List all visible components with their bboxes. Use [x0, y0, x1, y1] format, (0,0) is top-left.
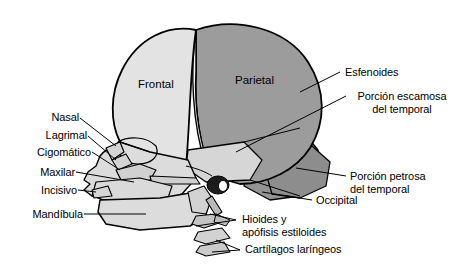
label-esfenoides: Esfenoides: [345, 66, 398, 79]
label-cartilagos: Cartílagos laríngeos: [245, 243, 341, 256]
label-hioides-line1: Hioides y: [242, 213, 286, 225]
label-porcion-escamosa-line2: del temporal: [372, 103, 431, 115]
label-porcion-petrosa: Porción petrosa del temporal: [350, 170, 426, 195]
label-lagrimal: Lagrimal: [0, 129, 87, 142]
meatus-highlight: [219, 181, 227, 191]
region-label-frontal: Frontal: [138, 78, 174, 90]
label-porcion-petrosa-line2: del temporal: [350, 183, 409, 195]
squamous-temporal-region: [186, 142, 262, 182]
label-hioides: Hioides y apófisis estiloides: [242, 213, 326, 238]
label-hioides-line2: apófisis estiloides: [242, 226, 326, 238]
diagram-canvas: Frontal Parietal Nasal Lagrimal Cigomáti…: [0, 0, 459, 269]
label-porcion-escamosa-line1: Porción escamosa: [358, 90, 447, 102]
label-incisivo: Incisivo: [0, 184, 77, 197]
label-occipital: Occipital: [316, 194, 357, 207]
label-cigomatico: Cigomático: [0, 146, 91, 159]
label-nasal: Nasal: [0, 111, 79, 124]
label-porcion-escamosa: Porción escamosa del temporal: [348, 90, 456, 115]
label-porcion-petrosa-line1: Porción petrosa: [350, 170, 426, 182]
label-mandibula: Mandíbula: [0, 208, 83, 221]
laryngeal-cartilage-upper: [194, 228, 230, 244]
region-label-parietal: Parietal: [235, 74, 274, 86]
label-maxilar: Maxilar: [0, 166, 75, 179]
